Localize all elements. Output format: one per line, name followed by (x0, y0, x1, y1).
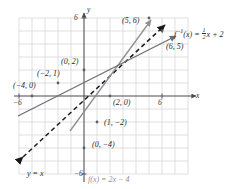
point-label-1-neg2: (1, −2) (104, 119, 127, 127)
point-label-neg4-0: (−4, 0) (13, 82, 36, 90)
graph-figure: x y 6 −6 6 −6 (5, 6) (6, 5) (0, 2) (−2, … (0, 0, 251, 189)
inverse-body: (x) = (183, 30, 201, 39)
point-label-2-0: (2, 0) (113, 99, 130, 107)
y-tick-label-negative: −6 (74, 170, 83, 178)
point-label-0-neg4: (0, −4) (92, 141, 115, 149)
x-tick-label-negative: −6 (13, 99, 22, 107)
point-label-6-5: (6, 5) (166, 43, 183, 51)
function-label: f(x) = 2x − 4 (88, 176, 129, 184)
fraction-numerator: 1 (202, 27, 206, 34)
identity-line-y-equals-x (23, 25, 165, 157)
point-label-0-2: (0, 2) (61, 58, 78, 66)
inverse-coefficient-fraction: 12 (202, 27, 206, 40)
inverse-tail: x + 2 (207, 30, 224, 39)
y-axis-label: y (87, 6, 90, 14)
point-label-5-6: (5, 6) (122, 17, 139, 25)
fraction-denominator: 2 (202, 34, 206, 40)
x-tick-label-positive: 6 (158, 99, 162, 107)
function-line-f (70, 20, 151, 131)
inverse-function-label: f−1(x) = 12x + 2 (174, 27, 224, 40)
y-tick-label-positive: 6 (74, 14, 78, 22)
identity-line-label: y = x (27, 170, 44, 178)
axes (14, 13, 196, 182)
x-axis-label: x (196, 92, 199, 100)
point-label-neg2-1: (−2, 1) (37, 70, 60, 78)
